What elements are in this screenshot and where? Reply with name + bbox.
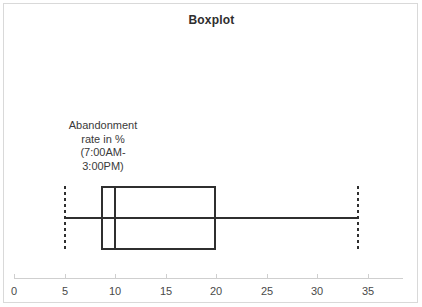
x-tick-label-4: 20 xyxy=(201,285,231,297)
whisker-cap-low xyxy=(64,186,66,250)
x-tick-3 xyxy=(166,274,167,278)
x-tick-1 xyxy=(65,274,66,278)
x-tick-label-2: 10 xyxy=(100,285,130,297)
series-label: Abandonment rate in % (7:00AM- 3:00PM) xyxy=(14,119,192,173)
x-tick-6 xyxy=(317,274,318,278)
x-tick-label-3: 15 xyxy=(151,285,181,297)
x-tick-label-0: 0 xyxy=(0,285,29,297)
x-axis-line xyxy=(14,278,403,279)
x-tick-7 xyxy=(368,274,369,278)
x-tick-label-7: 35 xyxy=(353,285,383,297)
x-tick-label-6: 30 xyxy=(302,285,332,297)
chart-frame: Boxplot Abandonment rate in % (7:00AM- 3… xyxy=(3,3,418,303)
x-tick-label-5: 25 xyxy=(252,285,282,297)
box-rect xyxy=(101,186,216,250)
series-label-line-2: rate in % xyxy=(14,133,192,147)
series-label-line-3: (7:00AM- xyxy=(14,146,192,160)
series-label-line-1: Abandonment xyxy=(14,119,192,133)
x-tick-2 xyxy=(115,274,116,278)
x-tick-0 xyxy=(14,274,15,278)
plot-area: Abandonment rate in % (7:00AM- 3:00PM) 0… xyxy=(4,4,419,304)
whisker-cap-high xyxy=(357,186,359,250)
x-tick-5 xyxy=(267,274,268,278)
x-tick-label-1: 5 xyxy=(50,285,80,297)
series-label-line-4: 3:00PM) xyxy=(14,160,192,174)
median-line xyxy=(114,186,116,250)
x-tick-4 xyxy=(216,274,217,278)
